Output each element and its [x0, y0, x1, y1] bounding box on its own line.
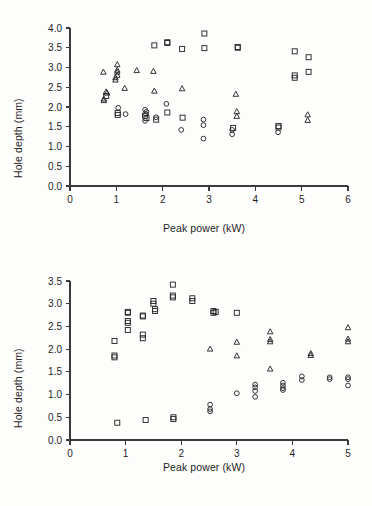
- data-point-square: [202, 46, 207, 51]
- data-point-square: [170, 295, 175, 300]
- series-circle: [208, 374, 351, 414]
- data-point-circle: [253, 394, 258, 399]
- x-tick-label: 0: [67, 448, 73, 459]
- x-tick-label: 0: [67, 194, 73, 205]
- x-axis-label-top: Peak power (kW): [18, 222, 372, 234]
- y-tick-label: 2.0: [48, 102, 62, 113]
- data-point-square: [115, 112, 120, 117]
- y-tick-label: 0.5: [48, 412, 62, 423]
- data-point-triangle: [101, 69, 107, 74]
- data-point-circle: [234, 391, 239, 396]
- scatter-plot-top: 0.00.51.01.52.02.53.03.54.00123456: [0, 0, 372, 253]
- data-point-square: [153, 307, 158, 312]
- y-tick-label: 1.0: [48, 389, 62, 400]
- series-triangle: [101, 62, 311, 123]
- data-point-square: [140, 336, 145, 341]
- data-point-square: [180, 115, 185, 120]
- data-point-circle: [276, 130, 281, 135]
- data-point-square: [115, 420, 120, 425]
- data-point-triangle: [234, 339, 240, 344]
- data-point-triangle: [305, 112, 311, 117]
- data-point-square: [202, 31, 207, 36]
- data-point-circle: [201, 117, 206, 122]
- y-tick-label: 1.5: [48, 366, 62, 377]
- x-tick-label: 2: [178, 448, 184, 459]
- y-tick-label: 2.5: [48, 82, 62, 93]
- data-point-square: [112, 353, 117, 358]
- data-point-triangle: [267, 329, 273, 334]
- y-tick-label: 2.0: [48, 344, 62, 355]
- data-point-circle: [201, 136, 206, 141]
- y-tick-label: 2.5: [48, 321, 62, 332]
- data-point-circle: [164, 101, 169, 106]
- data-point-square: [171, 417, 176, 422]
- data-point-square: [112, 338, 117, 343]
- series-triangle: [207, 325, 350, 371]
- x-tick-label: 4: [290, 448, 296, 459]
- data-point-triangle: [305, 117, 311, 122]
- data-point-triangle: [345, 325, 351, 330]
- data-point-square: [306, 55, 311, 60]
- data-point-circle: [208, 402, 213, 407]
- series-square: [112, 282, 239, 425]
- data-point-square: [306, 69, 311, 74]
- data-point-square: [125, 318, 130, 323]
- y-tick-label: 1.5: [48, 121, 62, 132]
- data-point-triangle: [152, 88, 158, 93]
- y-tick-label: 0.5: [48, 161, 62, 172]
- y-tick-label: 1.0: [48, 141, 62, 152]
- data-point-square: [152, 43, 157, 48]
- data-point-circle: [346, 383, 351, 388]
- x-tick-label: 3: [234, 448, 240, 459]
- y-axis-label-top: Hole depth (mm): [12, 98, 24, 178]
- x-axis-label-bottom: Peak power (kW): [18, 461, 372, 473]
- data-point-triangle: [233, 91, 239, 96]
- x-tick-label: 1: [123, 448, 129, 459]
- x-tick-label: 1: [114, 194, 120, 205]
- series-square: [104, 31, 311, 130]
- data-point-circle: [179, 128, 184, 133]
- x-tick-label: 3: [206, 194, 212, 205]
- figure-container: 0.00.51.01.52.02.53.03.54.00123456 Hole …: [0, 0, 372, 506]
- data-point-square: [153, 308, 158, 313]
- data-point-square: [292, 49, 297, 54]
- y-tick-label: 0.0: [48, 181, 62, 192]
- data-point-triangle: [122, 85, 128, 90]
- data-point-triangle: [267, 366, 273, 371]
- data-point-square: [143, 418, 148, 423]
- data-point-circle: [201, 123, 206, 128]
- y-tick-label: 3.5: [48, 276, 62, 287]
- data-point-triangle: [134, 68, 140, 73]
- data-point-square: [180, 46, 185, 51]
- data-point-square: [125, 320, 130, 325]
- data-point-square: [234, 310, 239, 315]
- chart-panel-bottom: 0.00.51.01.52.02.53.03.5012345 Hole dept…: [0, 253, 372, 506]
- x-tick-label: 4: [253, 194, 259, 205]
- x-tick-label: 5: [299, 194, 305, 205]
- series-circle: [116, 101, 281, 141]
- data-point-triangle: [207, 346, 213, 351]
- data-point-circle: [116, 105, 121, 110]
- x-tick-label: 5: [345, 448, 351, 459]
- y-tick-label: 3.0: [48, 62, 62, 73]
- data-point-square: [171, 415, 176, 420]
- data-point-square: [125, 328, 130, 333]
- x-tick-label: 2: [160, 194, 166, 205]
- data-point-square: [115, 110, 120, 115]
- data-point-square: [165, 110, 170, 115]
- chart-panel-top: 0.00.51.01.52.02.53.03.54.00123456 Hole …: [0, 0, 372, 253]
- data-point-square: [170, 282, 175, 287]
- data-point-circle: [123, 112, 128, 117]
- data-point-square: [140, 332, 145, 337]
- data-point-square: [112, 355, 117, 360]
- y-tick-label: 4.0: [48, 23, 62, 34]
- data-point-triangle: [115, 62, 121, 67]
- data-point-triangle: [151, 68, 157, 73]
- y-tick-label: 3.5: [48, 42, 62, 53]
- data-point-square: [170, 293, 175, 298]
- x-tick-label: 6: [345, 194, 351, 205]
- y-axis-label-bottom: Hole depth (mm): [12, 348, 24, 428]
- data-point-triangle: [179, 86, 185, 91]
- data-point-square: [276, 125, 281, 130]
- data-point-triangle: [234, 353, 240, 358]
